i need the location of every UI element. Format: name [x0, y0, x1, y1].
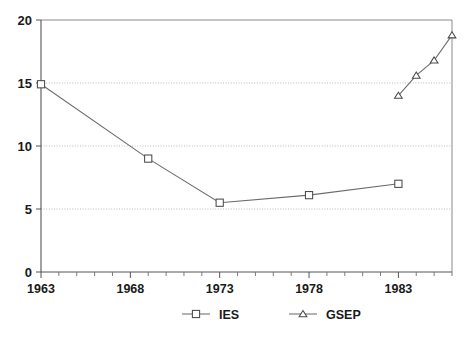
- y-tick-label-15: 15: [18, 76, 32, 91]
- x-tick-label-1968: 1968: [116, 282, 144, 296]
- y-tick-label-10: 10: [18, 139, 32, 154]
- legend-marker-ies: [192, 310, 199, 317]
- chart-canvas: 05101520 19631968197319781983 IESGSEP: [0, 0, 476, 341]
- x-tick-label-1963: 1963: [27, 282, 55, 296]
- line-chart: 05101520 19631968197319781983 IESGSEP: [0, 0, 476, 341]
- legend-label-ies: IES: [219, 308, 239, 322]
- x-tick-label-1983: 1983: [384, 282, 412, 296]
- datapoint-ies-1983: [395, 180, 402, 187]
- datapoint-ies-1963: [37, 81, 44, 88]
- y-tick-label-20: 20: [18, 13, 32, 28]
- datapoint-ies-1969: [145, 155, 152, 162]
- datapoint-ies-1973: [216, 199, 223, 206]
- y-tick-label-5: 5: [25, 202, 32, 217]
- y-tick-label-0: 0: [25, 265, 32, 280]
- x-tick-label-1973: 1973: [206, 282, 234, 296]
- datapoint-ies-1978: [305, 192, 312, 199]
- x-tick-label-1978: 1978: [295, 282, 323, 296]
- legend-label-gsep: GSEP: [326, 308, 361, 322]
